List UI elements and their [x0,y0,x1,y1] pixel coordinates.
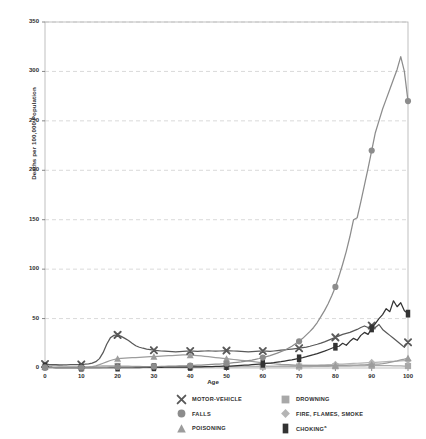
data-series-layer [41,57,411,372]
legend-item-choking[interactable]: CHOKINGa [280,423,420,434]
x-axis-title: Age [0,378,426,385]
legend-label: FALLS [192,411,211,417]
series-falls [42,57,411,371]
legend-label: CHOKINGa [296,424,327,432]
square-marker-icon [280,394,291,405]
legend-label: POISONING [192,425,226,431]
legend-item-fire-flames-smoke[interactable]: FIRE, FLAMES, SMOKE [280,408,420,419]
y-axis-title: Deaths per 100,000 Population [30,54,37,214]
legend-label: MOTOR-VEHICLE [192,396,242,402]
y-tick-label: 0 [13,364,39,370]
legend-item-falls[interactable]: FALLS [176,408,280,419]
circle-marker-icon [176,408,187,419]
chart-legend: MOTOR-VEHICLEDROWNINGFALLSFIRE, FLAMES, … [176,392,420,436]
legend-item-drowning[interactable]: DROWNING [280,394,420,405]
legend-item-poisoning[interactable]: POISONING [176,423,280,434]
chart-container: 050100150200250300350 010203040506070809… [0,0,426,439]
triangle-marker-icon [176,423,187,434]
y-tick-label: 150 [13,216,39,222]
y-tick-label: 350 [13,18,39,24]
y-tick-label: 50 [13,315,39,321]
x-marker-icon [176,394,187,405]
y-tick-label: 100 [13,265,39,271]
gridlines [45,22,408,319]
legend-label: FIRE, FLAMES, SMOKE [296,411,363,417]
legend-label: DROWNING [296,396,330,402]
legend-item-motor-vehicle[interactable]: MOTOR-VEHICLE [176,394,280,405]
diamond-marker-icon [280,408,291,419]
bar-marker-icon [280,423,291,434]
